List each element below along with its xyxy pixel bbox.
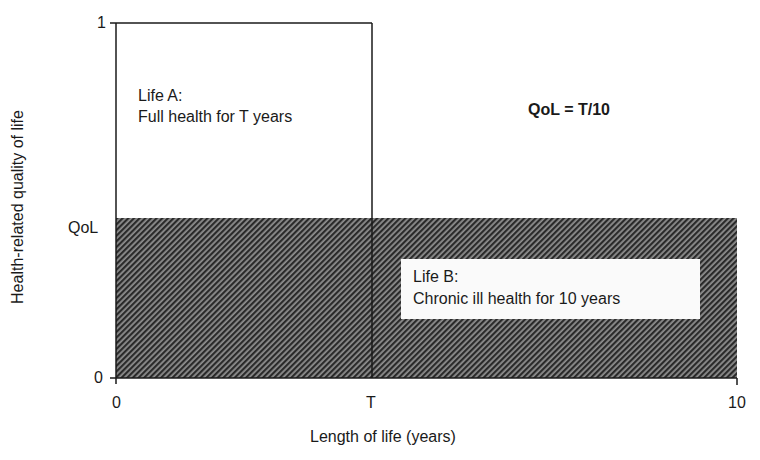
life-a-description: Full health for T years: [138, 107, 292, 127]
life-b-title: Life B:: [413, 268, 458, 286]
y-tick-label-1: 1: [97, 13, 106, 33]
y-tick-label-0: 0: [94, 368, 103, 388]
y-axis-title: Health-related quality of life: [9, 110, 27, 304]
y-tick-label-qol: QoL: [68, 218, 98, 238]
x-axis-title: Length of life (years): [310, 427, 456, 447]
life-b-description: Chronic ill health for 10 years: [413, 290, 620, 308]
x-tick-label-0: 0: [112, 393, 121, 413]
x-tick-label-10: 10: [728, 393, 746, 413]
qol-formula: QoL = T/10: [528, 100, 610, 120]
x-tick-label-t: T: [366, 393, 376, 413]
life-b-label-box: Life B: Chronic ill health for 10 years: [401, 259, 700, 319]
diagram-canvas: [0, 0, 760, 460]
life-a-title: Life A:: [138, 86, 182, 106]
